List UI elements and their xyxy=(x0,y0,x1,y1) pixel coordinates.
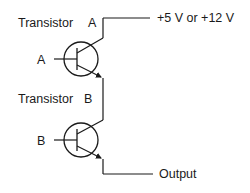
supply-wire xyxy=(103,18,150,38)
transistor-a-symbol xyxy=(54,38,103,77)
transistor-b-letter: B xyxy=(84,92,92,106)
transistor-a-letter: A xyxy=(88,16,97,30)
darlington-diagram: Transistor A +5 V or +12 V A Transistor … xyxy=(0,0,250,193)
output-label: Output xyxy=(159,167,197,181)
output-wire xyxy=(103,159,153,174)
transistor-b-input-label: B xyxy=(37,134,45,148)
transistor-a-input-label: A xyxy=(37,53,46,67)
transistor-a-title: Transistor xyxy=(18,16,73,30)
transistor-b-title: Transistor xyxy=(18,92,73,106)
transistor-b-symbol xyxy=(54,120,103,158)
supply-voltage-label: +5 V or +12 V xyxy=(157,11,235,25)
